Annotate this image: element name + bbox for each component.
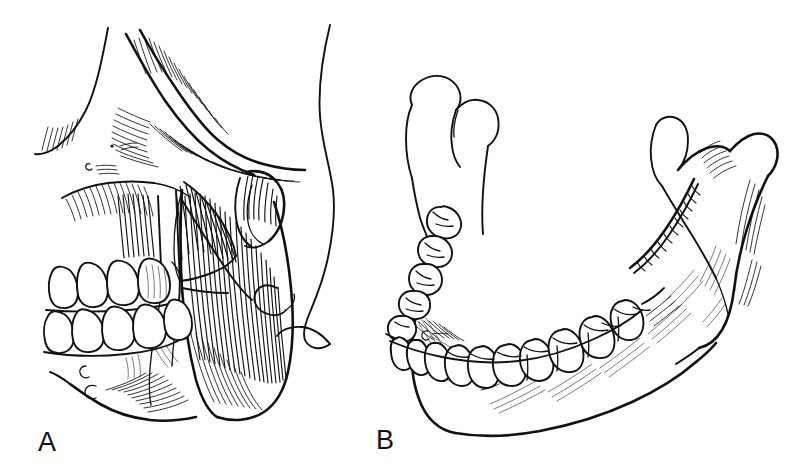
illustration-canvas: A	[0, 0, 807, 471]
canvas-background	[0, 0, 807, 471]
anatomical-figure-plate: A	[0, 0, 807, 471]
panel-a-label: A	[38, 427, 57, 457]
panel-b-label: B	[376, 425, 395, 455]
